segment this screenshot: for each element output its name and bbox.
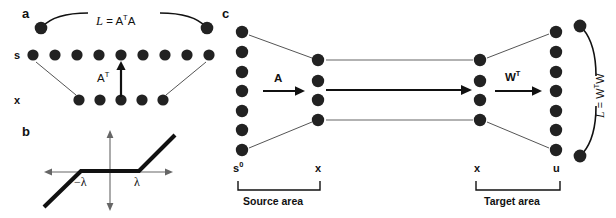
panel-a-arc-right [160, 13, 206, 27]
panel-b-y-axis-arrow-up [107, 130, 114, 138]
panel-c-column-label-x-source: x [315, 163, 321, 174]
panel-c-target-area-label: Target area [484, 196, 540, 207]
panel-c-u-node [550, 144, 562, 156]
panel-c-label: c [222, 7, 229, 20]
panel-a-end-node-right [201, 22, 214, 35]
panel-c-source-fan-line [249, 122, 312, 148]
panel-c-x-target-node [474, 54, 486, 66]
panel-c-x-target-node [474, 75, 486, 87]
panel-a-s-node [159, 49, 170, 60]
panel-a-s-node [93, 49, 104, 60]
panel-c-x-source-node [312, 94, 324, 106]
panel-c-side-equation: L = WTW [594, 73, 606, 118]
panel-a-s-node [49, 49, 60, 60]
panel-c-connector-arrow-head [461, 85, 472, 95]
panel-c-s0-node [236, 85, 248, 97]
panel-c-s0-node [236, 66, 248, 78]
panel-b-pos-lambda-label: λ [134, 176, 140, 188]
panel-b-neg-lambda-label: −λ [74, 176, 87, 188]
panel-c-x-source-node [312, 54, 324, 66]
panel-c-u-node [550, 66, 562, 78]
panel-c-arrow-A-head [295, 86, 305, 96]
panel-c-column-label-x-target: x [474, 163, 480, 174]
panel-b-x-axis-arrow-right [165, 169, 173, 176]
panel-a-fan-line [36, 62, 76, 95]
panel-c-side-arc-top [583, 29, 596, 76]
panel-c-x-source-node [312, 75, 324, 87]
panel-a-end-node-left [35, 22, 48, 35]
panel-b-y-axis-arrow-down [107, 203, 114, 211]
panel-a-x-node [157, 94, 168, 105]
panel-c-u-node [550, 85, 562, 97]
panel-c-s0-node [236, 144, 248, 156]
figure-graphics [0, 0, 616, 218]
panel-c-s0-node [236, 26, 248, 38]
panel-a-x-node [94, 94, 105, 105]
panel-a-x-node [136, 94, 147, 105]
panel-a-x-node [73, 94, 84, 105]
panel-c-source-area-label: Source area [243, 196, 303, 207]
panel-c-side-end-node-top [574, 20, 587, 33]
panel-c-side-end-node-bottom [574, 150, 587, 163]
panel-c-u-node [550, 46, 562, 58]
figure-container: a L = ATA s x AT b −λ λ c A WT s0 x x u … [0, 0, 616, 218]
panel-c-column-label-s0: s0 [233, 163, 243, 174]
panel-a-arc-left [42, 13, 88, 27]
panel-a-s-node [27, 49, 38, 60]
panel-c-arrow-WT-head [532, 86, 542, 96]
panel-c-graphics [236, 20, 596, 190]
panel-a-fan-line [166, 62, 206, 95]
panel-c-s0-node [236, 124, 248, 136]
panel-a-row-label-s: s [14, 50, 20, 61]
panel-c-u-node [550, 124, 562, 136]
panel-b-x-axis-arrow-left [44, 169, 52, 176]
panel-a-s-node [137, 49, 148, 60]
panel-a-s-node [181, 49, 192, 60]
panel-c-x-target-node [474, 94, 486, 106]
panel-c-arrow-label-WT: WT [505, 72, 520, 84]
panel-a-top-equation: L = ATA [96, 15, 135, 28]
panel-a-label: a [22, 7, 29, 20]
panel-c-u-node [550, 26, 562, 38]
panel-c-target-brace [476, 181, 560, 190]
panel-a-row-label-x: x [14, 95, 20, 106]
panel-c-arrow-label-A: A [274, 73, 282, 85]
panel-c-target-fan-line [487, 122, 549, 148]
panel-c-u-node [550, 105, 562, 117]
panel-a-arrow-label: AT [97, 73, 109, 85]
panel-c-target-fan-line [487, 34, 549, 58]
panel-c-column-label-u: u [553, 163, 560, 174]
panel-a-s-node [71, 49, 82, 60]
panel-a-s-node [203, 49, 214, 60]
panel-b-label: b [22, 125, 30, 138]
panel-b-graphics [44, 130, 175, 211]
panel-c-s0-node [236, 46, 248, 58]
panel-a-arrow-head [116, 61, 125, 70]
panel-c-source-fan-line [249, 35, 312, 58]
panel-c-source-brace [238, 181, 320, 190]
panel-c-s0-node [236, 105, 248, 117]
panel-c-x-target-node [474, 114, 486, 126]
panel-c-x-source-node [312, 114, 324, 126]
panel-a-s-node [115, 49, 126, 60]
